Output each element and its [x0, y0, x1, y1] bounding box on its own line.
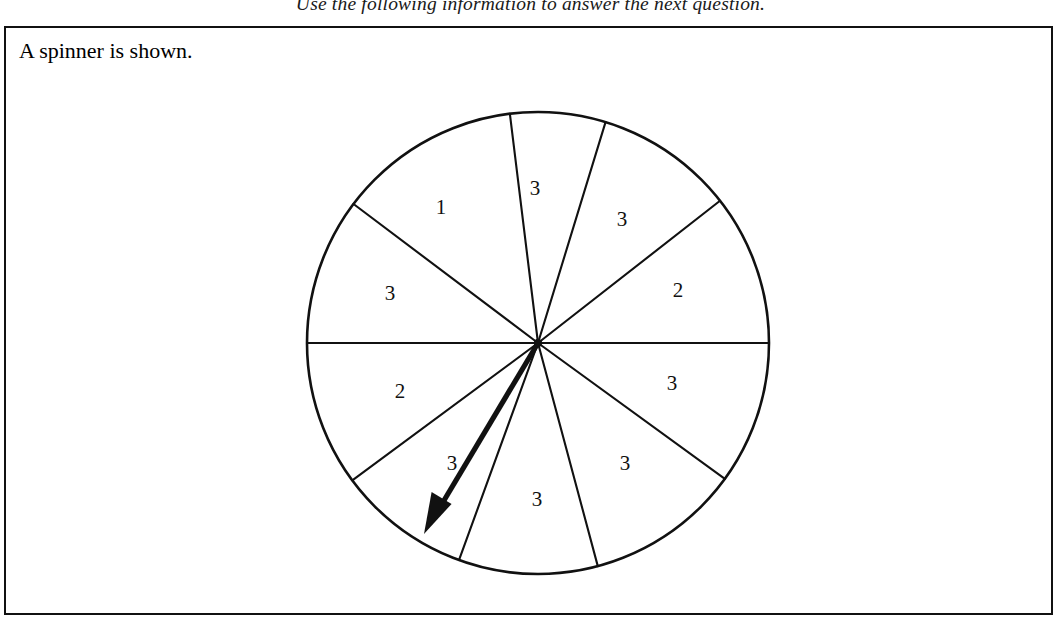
- instruction-banner: Use the following information to answer …: [0, 0, 1061, 19]
- spinner-caption: A spinner is shown.: [19, 36, 193, 66]
- instruction-text: Use the following information to answer …: [0, 0, 1061, 17]
- question-content-box: A spinner is shown.: [4, 26, 1053, 615]
- page-root: Use the following information to answer …: [0, 0, 1061, 644]
